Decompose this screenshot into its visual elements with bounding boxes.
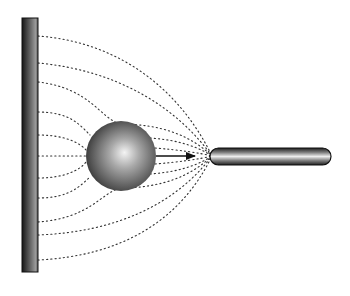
field-diagram bbox=[0, 0, 350, 296]
charged-sphere bbox=[86, 121, 156, 191]
diagram-canvas bbox=[0, 0, 350, 296]
charged-rod bbox=[210, 148, 331, 165]
ground-plane-wall bbox=[22, 18, 38, 272]
